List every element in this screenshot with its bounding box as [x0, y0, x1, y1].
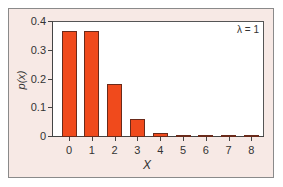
bar-8 — [244, 135, 259, 137]
x-tick-label: 5 — [175, 144, 191, 156]
x-tick-label: 4 — [152, 144, 168, 156]
y-tick — [48, 107, 53, 108]
bar-6 — [198, 135, 213, 137]
x-tick-label: 2 — [107, 144, 123, 156]
bar-2 — [107, 84, 122, 137]
lambda-annotation: λ = 1 — [237, 24, 259, 35]
x-tick-label: 7 — [221, 144, 237, 156]
bar-0 — [62, 31, 77, 137]
y-tick-label: 0 — [6, 130, 46, 142]
y-tick — [48, 79, 53, 80]
y-tick-label: 0.4 — [6, 15, 46, 27]
bar-4 — [153, 133, 168, 137]
x-axis-label: X — [143, 158, 151, 172]
x-tick-label: 3 — [129, 144, 145, 156]
y-tick-label: 0.3 — [6, 44, 46, 56]
x-tick-label: 8 — [243, 144, 259, 156]
x-tick-label: 0 — [61, 144, 77, 156]
y-tick-label: 0.1 — [6, 101, 46, 113]
y-tick — [48, 136, 53, 137]
y-tick — [48, 50, 53, 51]
y-tick — [48, 21, 53, 22]
bar-5 — [176, 135, 191, 137]
bar-1 — [84, 31, 99, 137]
y-axis-label: p(x) — [15, 71, 27, 90]
x-tick-label: 1 — [84, 144, 100, 156]
x-tick-label: 6 — [198, 144, 214, 156]
bar-3 — [130, 119, 145, 137]
bar-7 — [221, 135, 236, 137]
